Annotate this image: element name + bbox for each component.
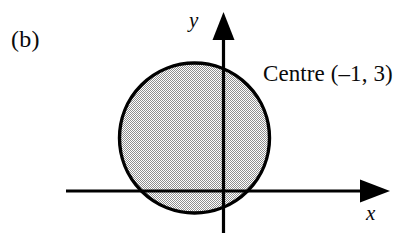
- centre-annotation: Centre (–1, 3): [263, 62, 393, 85]
- x-axis-arrowhead: [360, 180, 390, 203]
- y-axis-label: y: [189, 10, 198, 31]
- circle-diagram-svg: [0, 0, 402, 233]
- x-axis-label: x: [366, 203, 375, 224]
- figure-canvas: (b) y x Centre (–1, 3): [0, 0, 402, 233]
- panel-label: (b): [11, 27, 40, 51]
- y-axis-arrowhead: [213, 12, 235, 40]
